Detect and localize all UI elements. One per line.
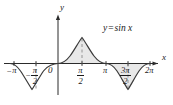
tick-label-pi-over-2: π2 bbox=[77, 66, 84, 85]
plot-canvas bbox=[0, 0, 173, 105]
fraction-denominator: 2 bbox=[77, 76, 83, 85]
fraction: π2 bbox=[77, 66, 84, 85]
equation-annotation: y=sin x bbox=[103, 24, 132, 34]
fraction-numerator: 3π bbox=[120, 66, 131, 75]
equation-rhs: sin x bbox=[115, 23, 133, 33]
fraction-denominator: 2 bbox=[122, 76, 128, 85]
fraction-denominator: 2 bbox=[32, 76, 38, 85]
tick-label-pi: π bbox=[103, 66, 107, 75]
fraction-numerator: π bbox=[32, 66, 38, 75]
tick-label-three-pi-over-2: 3π2 bbox=[120, 66, 131, 85]
equation-operator: = bbox=[107, 23, 114, 33]
tick-label-neg-pi-over-2: −π2 bbox=[26, 66, 38, 85]
fraction: 3π2 bbox=[120, 66, 131, 85]
fraction: π2 bbox=[31, 66, 38, 85]
tick-text: π bbox=[12, 65, 16, 75]
minus-sign: − bbox=[26, 70, 31, 80]
y-axis-label: y bbox=[60, 3, 64, 12]
sine-function-graph-figure: y=sin x y x 0 −π −π2 π2 π 3π2 2π bbox=[0, 0, 173, 105]
tick-label-two-pi: 2π bbox=[145, 66, 154, 75]
x-axis-label: x bbox=[162, 53, 166, 62]
origin-label: 0 bbox=[48, 66, 53, 75]
fraction-numerator: π bbox=[77, 66, 83, 75]
y-axis-arrow bbox=[56, 15, 60, 21]
tick-label-neg-pi: −π bbox=[7, 66, 17, 75]
